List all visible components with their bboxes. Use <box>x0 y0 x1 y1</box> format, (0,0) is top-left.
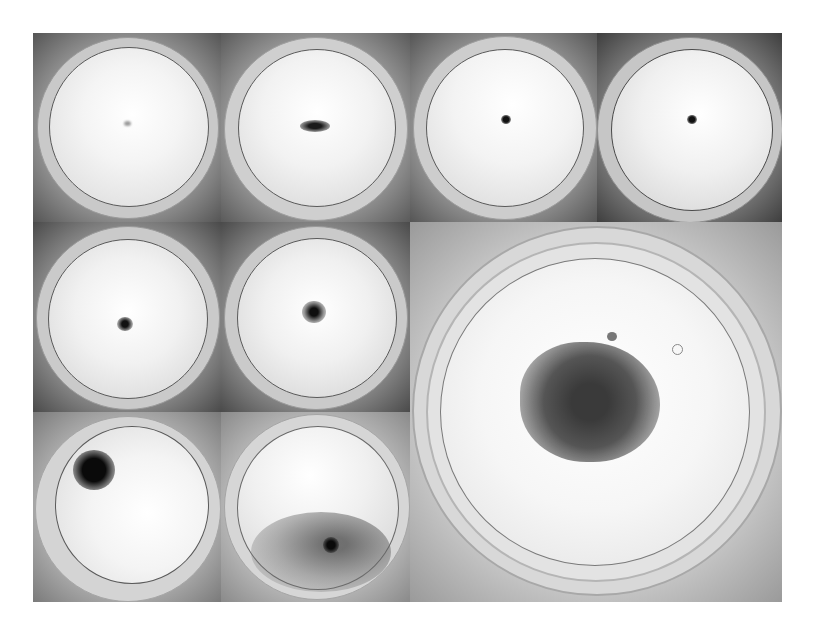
panel-row2-col1 <box>33 222 221 412</box>
colony <box>117 317 133 331</box>
panel-row1-col2 <box>221 33 410 222</box>
panel-row2-col2 <box>221 222 410 412</box>
colony-branched-cluster <box>520 342 660 462</box>
panel-row3-col2 <box>221 412 410 602</box>
colony <box>323 537 339 553</box>
petri-dish-figure <box>33 33 782 602</box>
colony <box>687 115 697 124</box>
colony <box>73 450 115 490</box>
petri-dish-interior <box>55 426 209 584</box>
panel-row3-col1 <box>33 412 221 602</box>
petri-dish-interior <box>49 47 209 207</box>
petri-dish-interior <box>426 49 584 207</box>
panel-row1-col3 <box>410 33 597 222</box>
colony <box>302 301 326 323</box>
bubble <box>672 344 683 355</box>
panel-row1-col4 <box>597 33 782 222</box>
colony-diffuse-growth <box>251 512 391 592</box>
colony-fragment <box>607 332 617 341</box>
colony <box>501 115 511 124</box>
colony <box>300 120 330 132</box>
panel-row1-col1 <box>33 33 221 222</box>
petri-dish-interior <box>611 49 773 211</box>
colony <box>124 121 131 126</box>
panel-large-enlarged <box>410 222 782 602</box>
